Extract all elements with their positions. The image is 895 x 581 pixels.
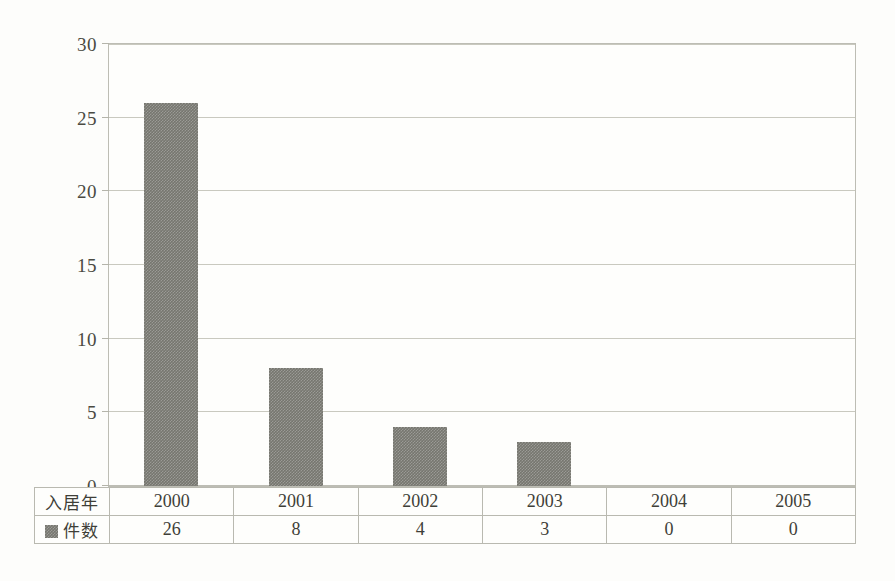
- bar-2002: [393, 427, 447, 486]
- year-cell-2: 2002: [358, 488, 482, 516]
- year-cell-1: 2001: [234, 488, 358, 516]
- gridline-15: [109, 264, 855, 265]
- y-tick-15: [102, 264, 109, 265]
- count-cell-1: 8: [234, 516, 358, 544]
- legend-swatch-icon: [45, 525, 58, 538]
- year-cell-3: 2003: [482, 488, 606, 516]
- y-axis-label-10: 10: [77, 330, 97, 349]
- bar-2001: [269, 368, 323, 486]
- count-cell-0: 26: [110, 516, 234, 544]
- bar-2003: [517, 442, 571, 486]
- row-header-count: 件数: [35, 516, 110, 544]
- y-tick-20: [102, 190, 109, 191]
- y-tick-10: [102, 338, 109, 339]
- y-axis-label-5: 5: [87, 403, 97, 422]
- gridline-25: [109, 117, 855, 118]
- year-cell-0: 2000: [110, 488, 234, 516]
- y-axis-label-20: 20: [77, 182, 97, 201]
- gridline-5: [109, 411, 855, 412]
- data-table: 入居年 2000 2001 2002 2003 2004 2005 件数 26 …: [34, 487, 856, 544]
- count-cell-2: 4: [358, 516, 482, 544]
- y-axis-label-30: 30: [77, 35, 97, 54]
- gridline-30: [109, 44, 855, 45]
- year-cell-5: 2005: [731, 488, 855, 516]
- y-tick-5: [102, 411, 109, 412]
- gridline-10: [109, 338, 855, 339]
- row-header-year: 入居年: [35, 488, 110, 516]
- gridline-20: [109, 190, 855, 191]
- table-row-year: 入居年 2000 2001 2002 2003 2004 2005: [35, 488, 856, 516]
- y-axis-label-15: 15: [77, 256, 97, 275]
- y-tick-30: [102, 43, 109, 44]
- count-cell-3: 3: [482, 516, 606, 544]
- year-cell-4: 2004: [607, 488, 731, 516]
- count-cell-5: 0: [731, 516, 855, 544]
- plot-area: 051015202530: [108, 43, 856, 487]
- count-cell-4: 0: [607, 516, 731, 544]
- chart-page: 051015202530 入居年 2000 2001 2002 2003 200…: [0, 0, 895, 581]
- y-tick-25: [102, 117, 109, 118]
- y-tick-0: [102, 485, 109, 486]
- row-header-count-label: 件数: [63, 521, 99, 541]
- gridline-0: [109, 485, 855, 486]
- y-axis-label-25: 25: [77, 109, 97, 128]
- bar-2000: [144, 103, 198, 486]
- table-row-count: 件数 26 8 4 3 0 0: [35, 516, 856, 544]
